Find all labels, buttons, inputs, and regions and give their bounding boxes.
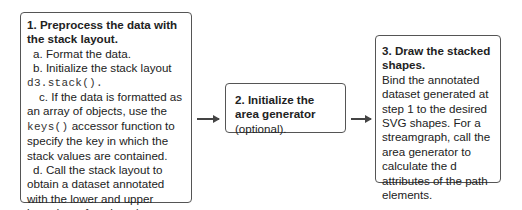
step1-d: d. Call the stack layout to obtain a dat…: [27, 163, 185, 210]
step1-title: 1. Preprocess the data with the stack la…: [27, 18, 185, 47]
arrow-step1-to-step2: [197, 118, 219, 120]
step1-a: a. Format the data.: [27, 47, 185, 61]
step3-title: 3. Draw the stacked shapes.: [382, 44, 494, 73]
step3-body: Bind the annotated dataset generated at …: [382, 73, 494, 203]
step1-box: 1. Preprocess the data with the stack la…: [20, 12, 192, 203]
step3-box: 3. Draw the stacked shapes. Bind the ann…: [375, 35, 501, 183]
step1-c-pre: c. If the data is formatted as an array …: [27, 90, 182, 117]
step1-b-code: d3.stack().: [27, 76, 185, 90]
step1-c-code: keys(): [27, 121, 68, 133]
step2-box: 2. Initialize the area generator (option…: [225, 83, 346, 133]
step2-title: 2. Initialize the area generator: [235, 93, 316, 120]
step1-d-text: d. Call the stack layout to obtain a dat…: [27, 163, 164, 210]
arrow-step2-to-step3: [351, 118, 371, 120]
step2-note: (optional).: [235, 122, 287, 135]
step1-b: b. Initialize the stack layout: [27, 61, 185, 75]
step1-c: c. If the data is formatted as an array …: [27, 90, 185, 163]
